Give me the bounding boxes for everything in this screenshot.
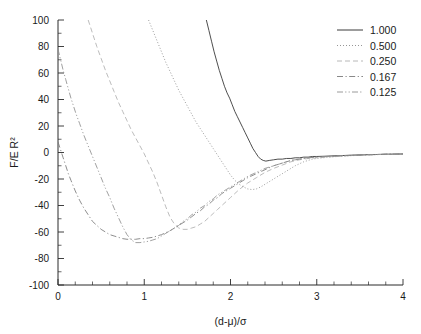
chart-figure: 01234 100806040200-20-40-60-80-100 (d-μ)… xyxy=(0,0,421,334)
y-axis-tick-labels: 100806040200-20-40-60-80-100 xyxy=(29,15,49,291)
y-axis-title: F/E R² xyxy=(8,137,20,168)
x-tick-label: 2 xyxy=(228,291,234,302)
legend-label-0-500: 0.500 xyxy=(370,40,396,52)
y-tick-label: 60 xyxy=(38,68,50,79)
y-tick-label: -60 xyxy=(35,227,50,238)
y-tick-label: 40 xyxy=(38,94,50,105)
y-axis-ticks xyxy=(58,20,64,285)
x-axis-tick-labels: 01234 xyxy=(55,291,406,302)
data-series-group xyxy=(58,20,403,243)
axes-group xyxy=(58,20,403,285)
y-tick-label: 20 xyxy=(38,121,50,132)
legend-label-0-250: 0.250 xyxy=(370,55,396,67)
x-axis-title: (d-μ)/σ xyxy=(215,315,247,327)
x-axis-ticks xyxy=(58,279,403,285)
y-tick-label: -20 xyxy=(35,174,50,185)
y-tick-label: 100 xyxy=(32,15,49,26)
chart-legend: 1.0000.5000.2500.1670.125 xyxy=(337,24,396,98)
chart-plot-svg: 01234 100806040200-20-40-60-80-100 (d-μ)… xyxy=(0,0,421,334)
y-tick-label: -40 xyxy=(35,200,50,211)
series-line-0-125 xyxy=(58,49,403,242)
x-tick-label: 0 xyxy=(55,291,61,302)
y-tick-label: -80 xyxy=(35,253,50,264)
series-line-0-500 xyxy=(149,20,403,190)
legend-label-1-000: 1.000 xyxy=(370,24,396,36)
x-tick-label: 3 xyxy=(314,291,320,302)
y-tick-label: 0 xyxy=(43,147,49,158)
y-tick-label: -100 xyxy=(29,280,49,291)
x-tick-label: 4 xyxy=(400,291,406,302)
series-line-0-167 xyxy=(58,142,403,239)
y-tick-label: 80 xyxy=(38,41,50,52)
legend-label-0-167: 0.167 xyxy=(370,71,396,83)
x-tick-label: 1 xyxy=(141,291,147,302)
series-line-0-250 xyxy=(88,20,403,229)
legend-label-0-125: 0.125 xyxy=(370,86,396,98)
